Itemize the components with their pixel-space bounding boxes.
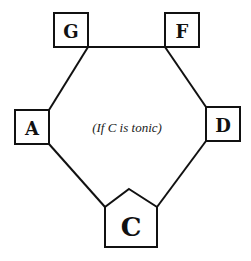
node-c-label: C: [121, 212, 142, 242]
node-d-label: D: [215, 115, 231, 136]
edge-g-a: [49, 47, 88, 110]
node-g-label: G: [63, 21, 78, 42]
edge-a-c: [49, 144, 105, 207]
circle-of-fifths-diagram: G F A D C (If C is tonic): [0, 0, 251, 261]
edge-d-c: [157, 141, 206, 207]
node-f: F: [165, 13, 199, 47]
diagram-caption: (If C is tonic): [92, 120, 162, 135]
node-a-label: A: [24, 118, 40, 139]
node-g: G: [54, 13, 88, 47]
node-a: A: [15, 110, 49, 144]
node-d: D: [206, 107, 240, 141]
node-f-label: F: [176, 21, 189, 42]
node-c-tonic: C: [105, 189, 157, 247]
edge-f-d: [165, 47, 206, 107]
